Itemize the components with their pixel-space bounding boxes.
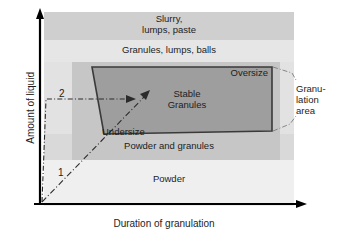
callout-leader-upper	[273, 67, 296, 80]
label-oversize: Oversize	[150, 67, 268, 78]
label-process-path-1: 1	[58, 167, 64, 179]
label-stable-granules: Stable Granules	[132, 88, 242, 110]
callout-leader-lower	[273, 116, 296, 131]
label-powder: Powder	[44, 173, 294, 184]
label-slurry-lumps-paste: Slurry, lumps, paste	[44, 13, 294, 35]
label-powder-and-granules: Powder and granules	[44, 140, 294, 151]
label-granules-lumps-balls: Granules, lumps, balls	[44, 44, 294, 55]
y-axis-arrowhead	[36, 8, 44, 19]
x-axis-title: Duration of granulation	[44, 218, 284, 230]
y-axis-title: Amount of liquid	[25, 33, 37, 183]
label-granulation-area-callout: Granu- lation area	[296, 83, 340, 117]
granulation-phase-diagram: Slurry, lumps, paste Granules, lumps, ba…	[0, 0, 340, 237]
diagram-vector-layer	[0, 0, 340, 237]
label-undersize: Undersize	[102, 126, 145, 137]
label-process-path-2: 2	[59, 88, 65, 100]
x-axis-arrowhead	[296, 200, 307, 208]
